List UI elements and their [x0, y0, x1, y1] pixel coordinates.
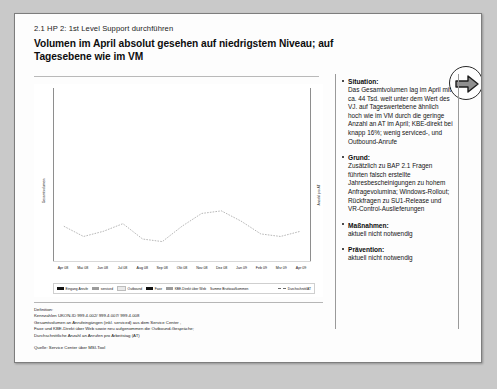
legend-label: Eingang Anrufe [66, 287, 89, 291]
x-axis-tick: Apr 08 [53, 266, 73, 276]
bullet-icon [342, 248, 344, 250]
commentary-heading: Situation: [348, 78, 453, 85]
legend-item: Eingang Anrufe [57, 287, 88, 291]
legend-item: Outbound [117, 286, 142, 292]
legend-label: Durchschnitt/AT [288, 287, 311, 291]
x-axis-line [53, 261, 311, 262]
x-axis-tick: Sep 08 [152, 266, 172, 276]
title-divider [34, 76, 319, 77]
x-axis-tick: Jan 09 [232, 266, 252, 276]
commentary-block: Situation:Das Gesamtvolumen lag im April… [342, 78, 453, 146]
commentary-heading: Prävention: [348, 246, 453, 253]
y-axis-label-right: Anzahl pro AT [316, 184, 320, 205]
bullet-icon [342, 80, 344, 82]
commentary-heading: Maßnahmen: [348, 222, 453, 229]
volume-chart: Gesamtvolumen Anzahl pro AT Apr 08Mai 08… [34, 84, 323, 297]
bullet-icon [342, 156, 344, 158]
x-axis-tick: Feb 09 [251, 266, 271, 276]
x-axis-tick: Jul 08 [113, 266, 133, 276]
commentary-block: Grund:Zusätzlich zu BAP 2.1 Fragen führt… [342, 154, 453, 214]
legend-swatch-icon [146, 287, 153, 291]
x-axis-tick-labels: Apr 08Mai 08Jun 08Jul 08Aug 08Sep 08Okt … [53, 266, 311, 276]
legend-swatch-icon [166, 287, 173, 291]
x-axis-tick: Mai 08 [73, 266, 93, 276]
commentary-panel: Situation:Das Gesamtvolumen lag im April… [335, 74, 459, 329]
legend-label: Summe Bruttoaufkommen [210, 287, 248, 291]
legend-label: serviced [101, 287, 113, 291]
legend-swatch-icon [117, 286, 126, 292]
commentary-text: aktuell nicht notwendig [348, 254, 453, 263]
legend-item: serviced [92, 287, 113, 291]
slide-kicker: 2.1 HP 2: 1st Level Support durchführen [34, 24, 173, 33]
y-axis-label-left: Gesamtvolumen [42, 178, 46, 203]
legend-swatch-icon [57, 287, 64, 291]
x-axis-tick: Aug 08 [132, 266, 152, 276]
definition-line-5: Durchschnittliche Anzahl an Anrufen pro … [34, 333, 323, 339]
legend-item: KBE-Direkt über Web [166, 287, 206, 291]
legend-label: Outbound [128, 287, 142, 291]
x-axis-tick: Mrz 09 [271, 266, 291, 276]
commentary-block: Prävention:aktuell nicht notwendig [342, 246, 453, 263]
x-axis-tick: Apr 09 [291, 266, 311, 276]
bullet-icon [342, 223, 344, 225]
commentary-heading: Grund: [348, 154, 453, 161]
legend-label: Faxe [155, 287, 162, 291]
legend-dashed-line-icon [278, 288, 286, 289]
commentary-block: Maßnahmen:aktuell nicht notwendig [342, 222, 453, 239]
x-axis-tick: Nov 08 [192, 266, 212, 276]
x-axis-tick: Jun 08 [93, 266, 113, 276]
legend-swatch-icon [92, 287, 99, 291]
page-title: Volumen im April absolut gesehen auf nie… [34, 37, 334, 64]
slide-canvas: 2.1 HP 2: 1st Level Support durchführen … [14, 13, 482, 363]
legend-item: Faxe [146, 287, 162, 291]
legend-item: Summe Bruttoaufkommen [210, 287, 274, 291]
source-line: Quelle: Service Center über MSI-Tool [34, 345, 323, 351]
chart-legend: Eingang AnrufeservicedOutboundFaxeKBE-Di… [53, 283, 315, 294]
legend-label: KBE-Direkt über Web [175, 287, 206, 291]
commentary-text: Zusätzlich zu BAP 2.1 Fragen führten fal… [348, 162, 453, 214]
legend-item: Durchschnitt/AT [278, 287, 311, 291]
definition-block: Definition: Kennzahlen UKON-ID 999.4.002… [34, 302, 323, 351]
commentary-text: aktuell nicht notwendig [348, 230, 453, 239]
commentary-text: Das Gesamtvolumen lag im April mit ca. 4… [348, 86, 453, 146]
x-axis-tick: Okt 08 [172, 266, 192, 276]
x-axis-tick: Dez 08 [212, 266, 232, 276]
plot-area [53, 88, 311, 262]
